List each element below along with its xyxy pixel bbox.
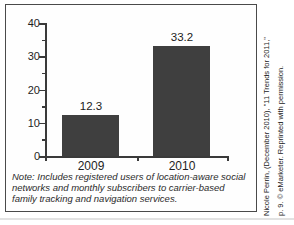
y-axis-minor-tick <box>42 139 45 141</box>
bar-value-label: 33.2 <box>160 31 204 44</box>
bar-2010 <box>153 46 210 156</box>
y-axis-line <box>45 23 47 161</box>
bar-value-label: 12.3 <box>69 100 113 113</box>
y-axis-minor-tick <box>42 73 45 75</box>
citation-line-1: Nicole Perrin, (December 2010), "11 Tren… <box>261 4 273 216</box>
scan-artifact-line <box>0 218 294 220</box>
x-axis-tick <box>137 156 139 161</box>
chart-frame: 01020304012.333.220092010 Note: Includes… <box>5 4 257 212</box>
chart-note: Note: Includes registered users of locat… <box>12 171 252 204</box>
y-axis-major-tick <box>39 156 45 158</box>
citation-line-2: p. 9. © eMarketer. Reprinted with permis… <box>275 4 287 216</box>
y-axis-major-tick <box>39 123 45 125</box>
x-axis-tick <box>227 156 229 161</box>
y-axis-major-tick <box>39 90 45 92</box>
y-axis-minor-tick <box>42 106 45 108</box>
y-axis-tick-label: 40 <box>14 17 40 29</box>
y-axis-tick-label: 0 <box>14 150 40 162</box>
bar-2009 <box>62 115 119 156</box>
y-axis-major-tick <box>39 56 45 58</box>
figure-page: 01020304012.333.220092010 Note: Includes… <box>0 0 294 225</box>
y-axis-major-tick <box>39 23 45 25</box>
y-axis-minor-tick <box>42 40 45 42</box>
y-axis-tick-label: 10 <box>14 117 40 129</box>
y-axis-tick-label: 20 <box>14 84 40 96</box>
y-axis-tick-label: 30 <box>14 50 40 62</box>
